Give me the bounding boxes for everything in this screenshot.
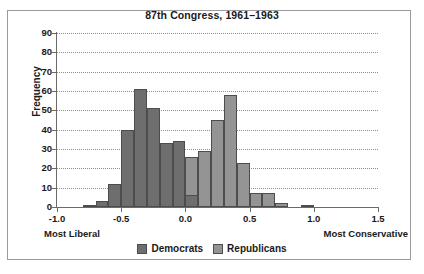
x-axis-tick-label: -0.5 <box>101 213 141 224</box>
bar-dem <box>96 201 109 207</box>
legend-swatch-icon <box>137 244 147 254</box>
legend-label: Democrats <box>151 243 203 254</box>
bar-dem <box>108 184 121 207</box>
y-axis-tick-label: 0 <box>30 202 52 211</box>
bar-dem <box>83 205 96 207</box>
x-axis-tick-label: 0.0 <box>165 213 205 224</box>
y-axis-tick-label: 90 <box>30 28 52 37</box>
x-axis-tick-label: 0.5 <box>230 213 270 224</box>
legend-swatch-icon <box>213 244 223 254</box>
legend-item: Democrats <box>137 243 203 254</box>
axis-annotation-left: Most Liberal <box>44 228 100 239</box>
x-axis-line <box>56 207 379 208</box>
x-axis-tick-mark <box>378 207 379 212</box>
chart-title: 87th Congress, 1961–1963 <box>0 9 424 21</box>
x-axis-tick-mark <box>250 207 251 212</box>
x-axis-tick-mark <box>57 207 58 212</box>
chart-legend: DemocratsRepublicans <box>0 243 424 254</box>
x-axis-tick-label: 1.0 <box>294 213 334 224</box>
x-axis-tick-label: -1.0 <box>37 213 77 224</box>
bar-dem <box>185 195 198 207</box>
bar-dem <box>147 108 160 207</box>
legend-label: Republicans <box>227 243 286 254</box>
bar-dem <box>160 143 173 207</box>
legend-item: Republicans <box>213 243 286 254</box>
chart-figure: 87th Congress, 1961–1963 010203040506070… <box>0 0 424 274</box>
y-axis-tick-label: 20 <box>30 163 52 172</box>
x-axis-tick-mark <box>314 207 315 212</box>
x-axis-tick-label: 1.5 <box>358 213 398 224</box>
bars-democrats <box>57 33 378 207</box>
bar-dem <box>173 141 186 207</box>
x-axis-tick-mark <box>121 207 122 212</box>
y-axis-title: Frequency <box>31 52 42 132</box>
y-axis-tick-label: 10 <box>30 183 52 192</box>
axis-annotation-right: Most Conservative <box>324 228 408 239</box>
plot-area <box>57 33 378 207</box>
bar-dem <box>121 130 134 207</box>
y-axis-tick-label: 30 <box>30 144 52 153</box>
bar-dem <box>134 89 147 207</box>
x-axis-tick-mark <box>185 207 186 212</box>
